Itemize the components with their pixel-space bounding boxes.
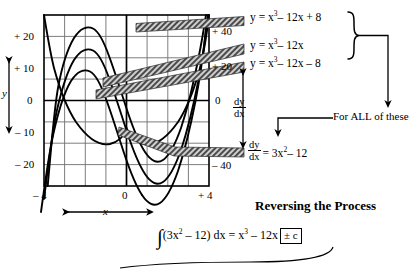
constant-of-integration-box: ± c [280, 228, 302, 244]
right-tick-40: + 40 [212, 26, 232, 37]
for-all-of-these-label: For ALL of these [333, 111, 409, 122]
right-tick-neg40: – 40 [212, 160, 231, 171]
x-tick-pos4: + 4 [198, 190, 212, 201]
y-tick-20: + 20 [14, 31, 34, 42]
right-tick-20: + 20 [212, 61, 232, 72]
equation-curve-3: y = x3– 12x – 8 [250, 58, 321, 70]
right-axis-dydx-den: dx [233, 108, 246, 119]
derivative-rhs-pre: = 3x [263, 147, 284, 159]
x-tick-0: 0 [122, 190, 128, 201]
integral-integrand-post: – 12) dx = x [183, 228, 245, 242]
right-tick-0: 0 [215, 95, 221, 106]
derivative-rhs-post: – 12 [287, 147, 307, 159]
equation-curve-1: y = x3– 12x + 8 [250, 12, 321, 24]
derivative-equation: dy dx = 3x2– 12 [248, 139, 307, 162]
right-axis-dydx-label: dy dx [233, 96, 246, 119]
equation-curve-3-rest: – 12x – 8 [278, 57, 321, 69]
equation-curve-2: y = x3– 12x [250, 40, 303, 52]
equation-curve-2-rest: – 12x [278, 39, 304, 51]
figure-root: + 20 + 10 0 – 10 – 20 y + 40 + 20 0 – 40… [0, 0, 416, 269]
curve-minus-8-tail [142, 15, 208, 205]
y-tick-neg10: – 10 [15, 127, 34, 138]
derivative-den: dx [248, 151, 261, 162]
equation-curve-2-lhs: y = x [250, 39, 274, 51]
section-heading: Reversing the Process [255, 199, 376, 212]
forall-leader [278, 118, 333, 133]
derivative-num: dy [248, 139, 261, 151]
integral-result-post: – 12x [248, 228, 278, 242]
equation-curve-3-lhs: y = x [250, 57, 274, 69]
integral-statement: ∫(3x2 – 12) dx = x3 – 12x± c [157, 227, 302, 248]
ribbon-to-derivative [118, 127, 244, 157]
right-axis-dydx-num: dy [233, 96, 246, 108]
y-tick-0: 0 [27, 95, 33, 106]
x-axis-label: x [103, 206, 108, 217]
equation-curve-1-lhs: y = x [250, 11, 274, 23]
integral-integrand-pre: (3x [163, 228, 179, 242]
brace-to-forall-connector [359, 36, 388, 105]
equation-brace [348, 12, 359, 59]
equation-curve-1-rest: – 12x + 8 [278, 11, 322, 23]
plus-c-leader [120, 247, 333, 268]
x-tick-neg4: – 4 [33, 190, 47, 201]
y-tick-neg20: – 20 [15, 159, 34, 170]
y-axis-label: y [2, 88, 7, 99]
y-tick-10: + 10 [14, 63, 34, 74]
